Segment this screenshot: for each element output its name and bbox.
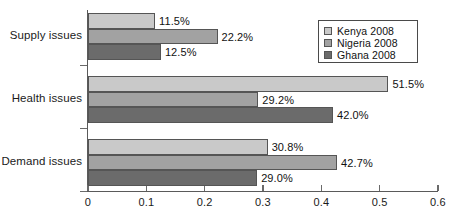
x-tick [262,185,263,191]
bar [88,76,388,92]
x-tick-label: 0.3 [255,196,271,208]
legend: Kenya 2008 Nigeria 2008 Ghana 2008 [318,20,418,63]
legend-label-ghana-2008: Ghana 2008 [337,49,396,61]
x-tick [204,185,205,191]
legend-item-nigeria-2008: Nigeria 2008 [324,37,398,49]
bar [88,107,333,123]
legend-item-ghana-2008: Ghana 2008 [324,49,396,61]
x-tick [437,185,438,191]
x-tick [87,185,88,191]
x-tick-label: 0.1 [138,196,154,208]
category-label: Health issues [0,92,82,104]
x-tick-label: 0.6 [430,196,446,208]
bar [88,170,257,186]
bar [88,13,155,29]
bar [88,92,258,108]
legend-label-nigeria-2008: Nigeria 2008 [337,37,398,49]
legend-swatch-kenya-2008 [324,27,332,35]
legend-swatch-ghana-2008 [324,51,332,59]
x-tick-label: 0.2 [197,196,213,208]
x-tick-label: 0.4 [313,196,329,208]
bar [88,139,268,155]
y-tick [80,65,87,66]
bar [88,44,161,60]
bar-value-label: 51.5% [392,78,424,90]
legend-item-kenya-2008: Kenya 2008 [324,25,394,37]
x-axis-line [87,191,438,192]
y-tick [80,191,87,192]
bar-value-label: 42.7% [341,157,373,169]
x-tick [321,185,322,191]
x-tick [146,185,147,191]
x-tick-label: 0.5 [372,196,388,208]
bar-value-label: 29.0% [261,172,293,184]
bar-value-label: 11.5% [159,15,190,27]
x-tick [379,185,380,191]
bar-value-label: 22.2% [222,31,254,43]
bar [88,155,337,171]
category-label: Demand issues [0,155,82,167]
y-tick [80,128,87,129]
bar-value-label: 12.5% [165,46,197,58]
legend-swatch-nigeria-2008 [324,39,332,47]
bar-value-label: 29.2% [262,94,294,106]
plot-area: 00.10.20.30.40.50.6 Supply issuesHealth … [0,0,456,217]
bar [88,29,218,45]
bar-value-label: 30.8% [272,141,304,153]
category-label: Supply issues [0,29,82,41]
bar-chart: 00.10.20.30.40.50.6 Supply issuesHealth … [0,0,456,217]
bar-value-label: 42.0% [337,109,369,121]
legend-label-kenya-2008: Kenya 2008 [337,25,394,37]
x-tick-label: 0 [85,196,91,208]
